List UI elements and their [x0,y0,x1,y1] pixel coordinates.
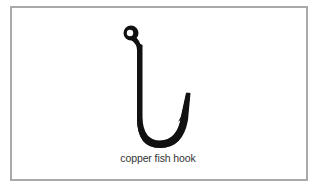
image-caption: copper fish hook [0,152,316,164]
